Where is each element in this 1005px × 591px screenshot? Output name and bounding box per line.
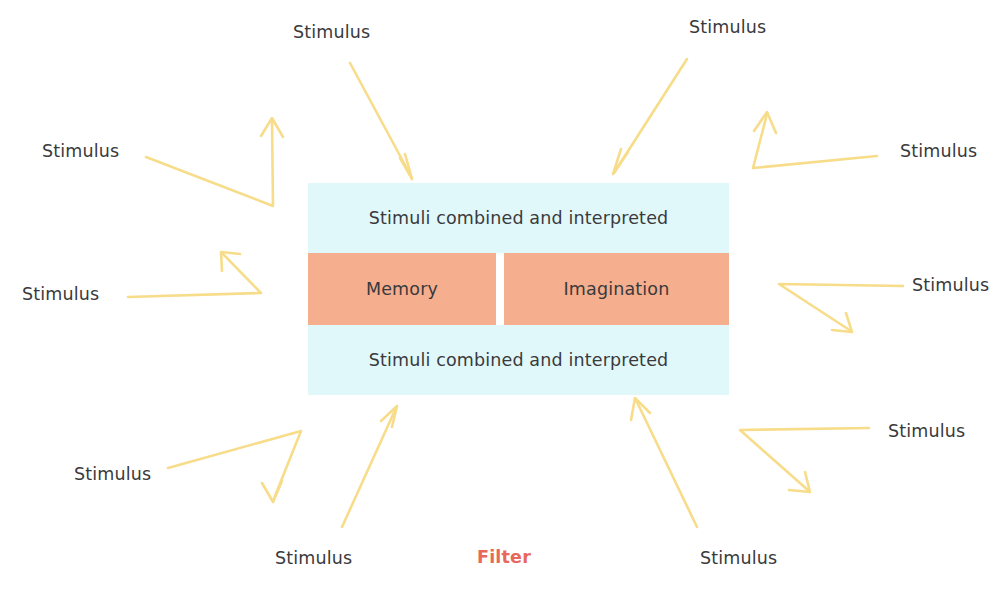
stimulus-label-top-right: Stimulus	[689, 19, 766, 37]
arrow-top-right	[613, 59, 687, 174]
diagram-canvas: Stimuli combined and interpreted Memory …	[0, 0, 1005, 591]
arrow-right-middle	[779, 284, 903, 332]
band-stimuli-combined-top: Stimuli combined and interpreted	[308, 183, 729, 253]
filter-box: Stimuli combined and interpreted Memory …	[308, 183, 729, 395]
band-top-label: Stimuli combined and interpreted	[369, 208, 669, 228]
stimulus-label-top-center: Stimulus	[293, 24, 370, 42]
stimulus-label-bottom-left: Stimulus	[275, 550, 352, 568]
arrow-bottom-right	[631, 398, 697, 527]
stimulus-label-right-upper: Stimulus	[900, 143, 977, 161]
stimulus-label-right-middle: Stimulus	[912, 277, 989, 295]
arrow-left-upper	[146, 118, 283, 206]
stimulus-label-right-lower: Stimulus	[888, 423, 965, 441]
stimulus-label-left-lower: Stimulus	[74, 466, 151, 484]
band-bottom-label: Stimuli combined and interpreted	[369, 350, 669, 370]
filter-caption: Filter	[477, 549, 531, 567]
cell-memory: Memory	[308, 253, 496, 325]
cell-imagination-label: Imagination	[564, 279, 670, 299]
stimulus-label-left-upper: Stimulus	[42, 143, 119, 161]
cell-imagination: Imagination	[504, 253, 729, 325]
cell-memory-label: Memory	[366, 279, 438, 299]
arrow-top-center	[350, 63, 412, 179]
stimulus-label-left-middle: Stimulus	[22, 286, 99, 304]
band-stimuli-combined-bottom: Stimuli combined and interpreted	[308, 325, 729, 395]
arrow-left-middle	[128, 252, 261, 297]
arrow-left-lower	[168, 431, 301, 502]
arrow-right-lower	[740, 428, 869, 492]
arrow-bottom-left	[342, 406, 397, 527]
stimulus-label-bottom-right: Stimulus	[700, 550, 777, 568]
arrow-right-upper	[753, 112, 877, 168]
